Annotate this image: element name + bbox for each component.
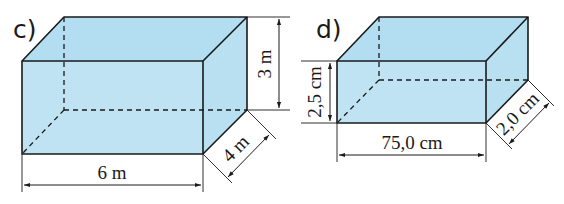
front-face-c (22, 61, 203, 154)
front-face-d (337, 61, 486, 123)
height-label-d: 2,5 cm (304, 66, 325, 118)
cuboid-diagrams: c) 3 m 6 m 4 m d) (0, 0, 564, 204)
cuboid-c: c) 3 m 6 m 4 m (13, 15, 290, 192)
length-label-c: 6 m (97, 162, 126, 183)
figure-label-c: c) (13, 15, 37, 44)
depth-label-c: 4 m (218, 131, 254, 167)
length-label-d: 75,0 cm (381, 132, 442, 153)
extension-line (247, 110, 276, 139)
height-label-c: 3 m (254, 49, 275, 78)
cuboid-d: d) 2,5 cm 75,0 cm 2,0 cm (301, 15, 554, 162)
figure-label-d: d) (316, 15, 342, 44)
